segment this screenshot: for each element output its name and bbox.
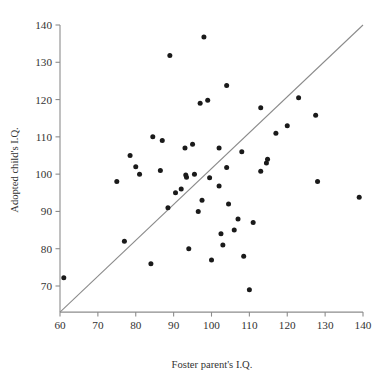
data-point [201, 34, 206, 39]
data-point [285, 123, 290, 128]
data-point [357, 195, 362, 200]
data-point [133, 164, 138, 169]
data-point [167, 53, 172, 58]
y-tick-label: 140 [35, 19, 52, 31]
y-tick-label: 130 [35, 56, 52, 68]
scatter-plot-figure: 7080901001101201301406070809010011012013… [0, 0, 386, 375]
data-point [165, 205, 170, 210]
data-point [128, 153, 133, 158]
data-point [173, 190, 178, 195]
data-point [224, 83, 229, 88]
data-point [251, 220, 256, 225]
data-point [182, 146, 187, 151]
data-point [137, 172, 142, 177]
data-point [150, 134, 155, 139]
data-point [220, 242, 225, 247]
x-tick-label: 80 [130, 319, 142, 331]
data-point [184, 175, 189, 180]
data-point [198, 101, 203, 106]
data-point [186, 246, 191, 251]
data-point [296, 95, 301, 100]
data-point [217, 146, 222, 151]
data-point [205, 98, 210, 103]
data-point [218, 231, 223, 236]
data-point [226, 201, 231, 206]
y-axis-title: Adopted child's I.Q. [9, 127, 20, 212]
x-tick-label: 90 [168, 319, 180, 331]
data-points-layer [61, 34, 361, 292]
x-tick-label: 130 [317, 319, 334, 331]
data-point [315, 179, 320, 184]
data-point [241, 254, 246, 259]
scatter-plot-canvas: 7080901001101201301406070809010011012013… [0, 0, 386, 375]
identity-reference-line [60, 25, 363, 312]
x-tick-label: 120 [279, 319, 296, 331]
data-point [258, 105, 263, 110]
data-point [265, 157, 270, 162]
data-point [239, 149, 244, 154]
data-point [196, 209, 201, 214]
data-point [313, 113, 318, 118]
data-point [200, 198, 205, 203]
data-point [114, 179, 119, 184]
data-point [217, 184, 222, 189]
x-tick-label: 140 [355, 319, 372, 331]
data-point [224, 165, 229, 170]
data-point [179, 187, 184, 192]
data-point [209, 257, 214, 262]
data-point [122, 239, 127, 244]
data-point [247, 287, 252, 292]
data-point [190, 142, 195, 147]
data-point [148, 261, 153, 266]
data-point [160, 138, 165, 143]
data-point [61, 275, 66, 280]
y-tick-label: 70 [41, 280, 53, 292]
identity-line [60, 25, 363, 312]
data-point [236, 216, 241, 221]
x-tick-label: 110 [241, 319, 258, 331]
x-tick-label: 60 [54, 319, 66, 331]
y-tick-label: 110 [36, 131, 53, 143]
data-point [192, 172, 197, 177]
data-point [232, 228, 237, 233]
axis-tick-labels: 7080901001101201301406070809010011012013… [35, 19, 372, 331]
data-point [158, 168, 163, 173]
x-axis-title: Foster parent's I.Q. [172, 359, 253, 370]
data-point [207, 175, 212, 180]
y-tick-label: 100 [35, 168, 52, 180]
x-tick-label: 100 [203, 319, 220, 331]
data-point [273, 131, 278, 136]
y-tick-label: 120 [35, 94, 52, 106]
data-point [258, 169, 263, 174]
y-tick-label: 80 [41, 243, 53, 255]
y-tick-label: 90 [41, 205, 53, 217]
x-tick-label: 70 [92, 319, 104, 331]
